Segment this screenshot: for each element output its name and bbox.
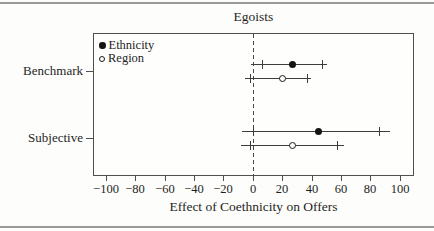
category-label: Subjective bbox=[0, 130, 83, 146]
legend-label-region: Region bbox=[108, 52, 144, 65]
filled-circle-icon bbox=[99, 42, 106, 49]
ci-inner-cap-left bbox=[250, 74, 251, 83]
y-tick bbox=[86, 71, 93, 72]
open-circle-icon bbox=[99, 56, 105, 62]
ci-inner-cap-right bbox=[337, 141, 338, 150]
ci-inner-cap-right bbox=[322, 60, 323, 69]
legend-item-region: Region bbox=[99, 52, 154, 65]
point-marker-open bbox=[279, 75, 286, 82]
plot-box: Ethnicity Region bbox=[93, 33, 414, 176]
x-tick bbox=[106, 176, 107, 181]
x-tick bbox=[165, 176, 166, 181]
x-axis-title: Effect of Coethnicity on Offers bbox=[93, 199, 414, 215]
plot-area: Ethnicity Region bbox=[94, 34, 413, 175]
x-tick bbox=[194, 176, 195, 181]
ci-inner-cap-left bbox=[253, 127, 254, 136]
x-tick bbox=[253, 176, 254, 181]
legend: Ethnicity Region bbox=[99, 39, 154, 65]
chart-title: Egoists bbox=[93, 9, 414, 25]
x-tick-label: 100 bbox=[378, 182, 422, 197]
figure-egoists: Egoists Ethnicity Region BenchmarkSubjec… bbox=[0, 0, 434, 231]
ci-outer-line bbox=[245, 78, 311, 79]
ci-inner-cap-left bbox=[250, 141, 251, 150]
category-label: Benchmark bbox=[0, 63, 83, 79]
page-rule-top bbox=[0, 2, 434, 4]
ci-inner-cap-right bbox=[379, 127, 380, 136]
point-marker-filled bbox=[315, 128, 322, 135]
x-tick bbox=[223, 176, 224, 181]
point-marker-filled bbox=[289, 61, 296, 68]
point-marker-open bbox=[289, 142, 296, 149]
x-tick bbox=[400, 176, 401, 181]
x-tick bbox=[341, 176, 342, 181]
x-tick bbox=[282, 176, 283, 181]
x-tick bbox=[135, 176, 136, 181]
x-tick bbox=[370, 176, 371, 181]
x-tick bbox=[312, 176, 313, 181]
ci-inner-cap-left bbox=[262, 60, 263, 69]
page-rule-bottom bbox=[0, 226, 434, 228]
ci-inner-cap-right bbox=[307, 74, 308, 83]
zero-reference-line bbox=[253, 34, 254, 175]
y-tick bbox=[86, 138, 93, 139]
